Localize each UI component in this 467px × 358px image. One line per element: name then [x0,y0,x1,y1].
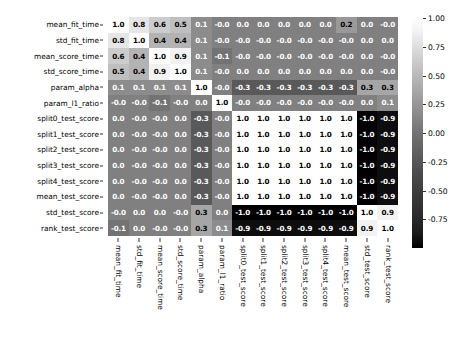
heatmap-cell: 0.0 [294,64,315,80]
heatmap-cell: -0.0 [274,95,295,111]
heatmap-cell: 0.0 [191,95,212,111]
heatmap-cell: 0.0 [315,64,336,80]
heatmap-cell: -0.0 [315,48,336,64]
x-tick-mark [221,238,222,242]
x-tick-mark [201,238,202,242]
heatmap-cell: 0.0 [149,205,170,221]
heatmap-cell: 1.0 [336,189,357,205]
heatmap-cell: -0.9 [377,158,398,174]
heatmap-cell: 1.0 [294,111,315,127]
heatmap-cell: 0.0 [253,17,274,33]
x-tick-label: std_fit_time [135,245,144,288]
heatmap-cell: -0.0 [274,33,295,49]
heatmap-cell: -0.0 [149,111,170,127]
heatmap-cell: -1.0 [357,142,378,158]
heatmap-cell: -0.0 [253,48,274,64]
y-tick-mark [100,40,103,41]
colorbar-tick-label: -0.25 [428,157,448,166]
y-tick-label: split4_test_score [0,173,104,189]
x-tick-label-wrap: mean_test_score [336,238,357,348]
heatmap-cell: 0.1 [191,33,212,49]
colorbar-tick-mark [423,191,426,192]
heatmap-cell: 0.1 [108,80,129,96]
heatmap-cell: -0.3 [232,80,253,96]
colorbar-tick-mark [423,104,426,105]
x-tick-mark [284,238,285,242]
heatmap-cell: -0.0 [212,173,233,189]
heatmap-cell: 1.0 [336,158,357,174]
heatmap-cell: -0.9 [377,173,398,189]
x-tick-label-wrap: split4_test_score [315,238,336,348]
x-tick-label-wrap: split3_test_score [294,238,315,348]
colorbar-tick-label: 0.75 [428,42,445,51]
x-tick-label: param_l1_ratio [217,245,226,300]
heatmap-cell: -0.9 [336,220,357,236]
heatmap-cell: -0.0 [294,33,315,49]
heatmap-cell: -0.0 [253,95,274,111]
heatmap-cell: 1.0 [294,158,315,174]
heatmap-cell: -0.0 [336,48,357,64]
heatmap-cell: -0.0 [336,95,357,111]
x-tick-label: mean_score_time [155,245,164,310]
heatmap-cell: 1.0 [149,48,170,64]
heatmap-cell: -0.3 [191,173,212,189]
heatmap-cell: 1.0 [294,189,315,205]
heatmap-cell: 0.9 [170,48,191,64]
heatmap-cell: 0.3 [357,80,378,96]
heatmap-cell: 1.0 [253,111,274,127]
y-tick-mark [100,87,103,88]
heatmap-cell: -0.9 [377,189,398,205]
heatmap-cell: -0.0 [212,189,233,205]
heatmap-cell: -0.3 [274,80,295,96]
x-tick-mark [387,238,388,242]
heatmap-cell: 1.0 [232,142,253,158]
heatmap-cell: 1.0 [232,189,253,205]
heatmap-cell: 1.0 [315,142,336,158]
heatmap-cell: -0.0 [129,111,150,127]
heatmap-cell: -1.0 [357,127,378,143]
heatmap-cell: 0.1 [377,95,398,111]
y-tick-mark [100,228,103,229]
heatmap-cell: -0.0 [294,48,315,64]
heatmap-cell: -0.0 [212,17,233,33]
heatmap-cell: 0.4 [149,33,170,49]
x-tick-label-wrap: mean_fit_time [108,238,129,348]
heatmap-cell: 0.6 [149,17,170,33]
x-tick-label: split3_test_score [300,245,309,307]
heatmap-cell: 0.0 [232,64,253,80]
heatmap-cell: -0.0 [232,48,253,64]
colorbar-tick-mark [423,76,426,77]
x-axis-tick-labels: mean_fit_timestd_fit_timemean_score_time… [108,238,398,348]
heatmap-cell: -0.0 [336,33,357,49]
x-tick-label-wrap: mean_score_time [149,238,170,348]
heatmap-cell-grid: 1.00.80.60.50.1-0.00.00.00.00.00.00.20.0… [108,17,398,236]
heatmap-cell: 0.0 [108,127,129,143]
x-tick-label-wrap: split1_test_score [253,238,274,348]
heatmap-cell: -0.9 [294,220,315,236]
heatmap-cell: 0.1 [129,80,150,96]
heatmap-cell: -0.0 [149,158,170,174]
heatmap-cell: 1.0 [232,158,253,174]
y-tick-label: split0_test_score [0,111,104,127]
heatmap-cell: -0.0 [253,33,274,49]
heatmap-cell: 1.0 [232,111,253,127]
heatmap-cell: 0.0 [108,189,129,205]
heatmap-cell: 1.0 [336,111,357,127]
y-tick-mark [100,134,103,135]
heatmap-cell: -0.0 [149,127,170,143]
heatmap-cell: 1.0 [253,142,274,158]
heatmap-cell: 1.0 [274,111,295,127]
heatmap-cell: -0.0 [212,33,233,49]
heatmap-cell: 0.6 [108,48,129,64]
heatmap-cell: 1.0 [294,127,315,143]
x-tick-label: split0_test_score [238,245,247,307]
heatmap-cell: 0.0 [170,111,191,127]
heatmap-cell: -0.0 [315,95,336,111]
heatmap-cell: 1.0 [274,142,295,158]
y-tick-mark [100,165,103,166]
heatmap-cell: -0.0 [212,111,233,127]
x-tick-mark [242,238,243,242]
heatmap-cell: 1.0 [253,127,274,143]
heatmap-cell: -0.0 [108,95,129,111]
heatmap-cell: -0.9 [377,127,398,143]
